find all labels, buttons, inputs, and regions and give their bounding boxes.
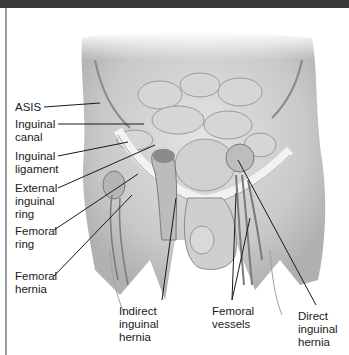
deep-inguinal-ring	[153, 149, 175, 163]
label-femoral-hernia: Femoral hernia	[15, 270, 57, 296]
label-direct-inguinal-hernia: Direct inguinal hernia	[298, 310, 338, 349]
label-inguinal-canal: Inguinal canal	[15, 118, 55, 144]
direct-hernia-sac	[226, 144, 254, 172]
genitalia	[184, 198, 236, 269]
label-femoral-ring: Femoral ring	[15, 225, 57, 251]
label-external-inguinal-ring: External inguinal ring	[15, 182, 57, 221]
anatomy-illustration	[0, 0, 349, 355]
label-indirect-inguinal-hernia: Indirect inguinal hernia	[119, 305, 159, 344]
label-femoral-vessels: Femoral vessels	[212, 305, 254, 331]
label-asis: ASIS	[15, 101, 41, 114]
bladder	[175, 139, 235, 191]
label-inguinal-ligament: Inguinal ligament	[15, 150, 58, 176]
